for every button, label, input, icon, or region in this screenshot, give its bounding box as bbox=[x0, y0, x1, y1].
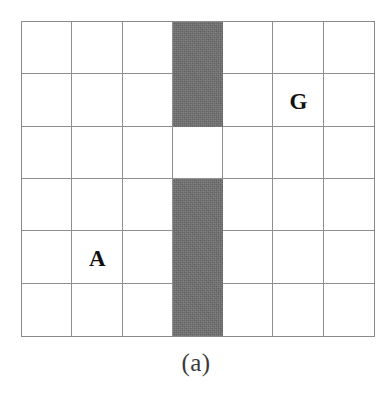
grid-labels-layer: AG bbox=[22, 22, 374, 336]
figure-caption: (a) bbox=[0, 349, 392, 377]
goal-label: G bbox=[290, 89, 308, 112]
gridworld-grid: AG bbox=[21, 21, 375, 337]
gridworld-figure: AG (a) bbox=[0, 0, 392, 400]
agent-start-label: A bbox=[89, 246, 106, 269]
